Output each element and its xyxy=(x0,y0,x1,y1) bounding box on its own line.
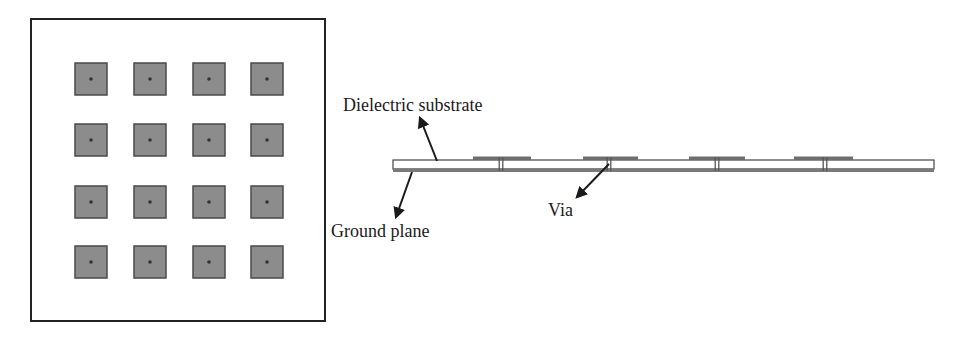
patch-array-diagram: Dielectric substrate Ground plane Via xyxy=(0,0,958,341)
via-dot-icon xyxy=(89,200,93,204)
ground-plane-label: Ground plane xyxy=(331,221,429,241)
via-dot-icon xyxy=(265,200,269,204)
via-dot-icon xyxy=(207,138,211,142)
via-dot-icon xyxy=(148,200,152,204)
cross-section-patch xyxy=(473,157,531,161)
cross-section-patch xyxy=(689,157,745,161)
dielectric-substrate xyxy=(393,160,934,169)
via-dot-icon xyxy=(265,77,269,81)
via-dot-icon xyxy=(148,77,152,81)
ground-plane xyxy=(393,169,934,173)
dielectric-substrate-label: Dielectric substrate xyxy=(343,95,482,115)
via-dot-icon xyxy=(207,200,211,204)
ground-plane-arrow xyxy=(396,172,412,217)
dielectric-substrate-arrow xyxy=(420,118,437,161)
via-label: Via xyxy=(548,200,573,220)
via-dot-icon xyxy=(148,138,152,142)
top-view xyxy=(31,19,325,321)
via-dot-icon xyxy=(265,138,269,142)
via-dot-icon xyxy=(148,260,152,264)
via-dot-icon xyxy=(207,77,211,81)
via-dot-icon xyxy=(207,260,211,264)
cross-section-view: Dielectric substrate Ground plane Via xyxy=(331,95,934,241)
via-dot-icon xyxy=(89,77,93,81)
via-dot-icon xyxy=(265,260,269,264)
via-dot-icon xyxy=(89,260,93,264)
via-dot-icon xyxy=(89,138,93,142)
